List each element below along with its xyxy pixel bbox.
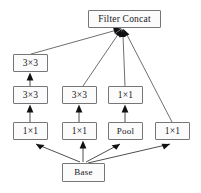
node-right-1x1[interactable]: 1×1 <box>156 123 190 140</box>
node-mid-1x1-label: 1×1 <box>72 126 88 136</box>
edge-left-3x3-top-to-filter-concat <box>31 28 122 54</box>
node-mid-1x1[interactable]: 1×1 <box>63 123 97 140</box>
node-pool-1x1-label: 1×1 <box>118 90 134 100</box>
edge-left-1x1-to-left-3x3 <box>27 105 34 123</box>
inception-module-diagram: Filter Concat 3×3 3×3 3×3 1×1 <box>0 0 201 193</box>
edge-layer <box>27 28 172 163</box>
edge-pool-to-pool-1x1 <box>122 105 129 123</box>
node-pool-label: Pool <box>117 126 135 136</box>
node-base[interactable]: Base <box>63 164 105 182</box>
node-filter-concat-label: Filter Concat <box>98 14 151 24</box>
edge-base-to-mid-1x1 <box>80 141 87 163</box>
edge-right-1x1-to-filter-concat <box>123 29 172 122</box>
node-mid-3x3-label: 3×3 <box>72 90 88 100</box>
diagram-canvas: Filter Concat 3×3 3×3 3×3 1×1 <box>0 0 201 193</box>
node-pool[interactable]: Pool <box>109 123 143 140</box>
node-mid-3x3[interactable]: 3×3 <box>63 87 97 104</box>
edge-pool-1x1-to-filter-concat <box>119 29 126 86</box>
edge-left-3x3-to-left-3x3-top <box>27 73 34 87</box>
node-filter-concat[interactable]: Filter Concat <box>89 11 161 28</box>
node-pool-1x1[interactable]: 1×1 <box>109 87 143 104</box>
node-left-1x1[interactable]: 1×1 <box>14 123 48 140</box>
edge-mid-3x3-to-filter-concat <box>83 29 122 86</box>
edge-base-to-left-1x1 <box>36 144 80 162</box>
node-base-label: Base <box>74 167 92 177</box>
node-layer: Filter Concat 3×3 3×3 3×3 1×1 <box>14 11 190 182</box>
node-right-1x1-label: 1×1 <box>165 126 181 136</box>
node-left-1x1-label: 1×1 <box>23 126 39 136</box>
node-left-3x3-mid[interactable]: 3×3 <box>14 87 48 104</box>
node-left-3x3-mid-label: 3×3 <box>23 90 39 100</box>
node-left-3x3-top[interactable]: 3×3 <box>14 55 48 72</box>
edge-mid-1x1-to-mid-3x3 <box>76 105 83 123</box>
node-left-3x3-top-label: 3×3 <box>23 58 39 68</box>
edge-base-to-right-1x1 <box>88 144 170 163</box>
